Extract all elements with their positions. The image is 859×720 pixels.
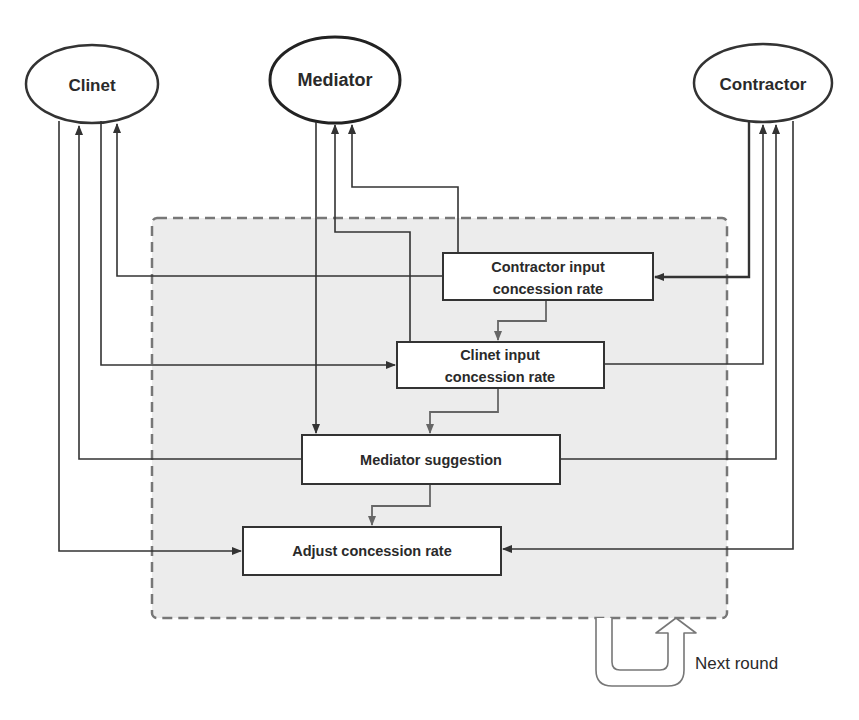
step-mediator-suggestion: Mediator suggestion [302, 435, 560, 484]
step-client-input: Clinet input concession rate [397, 342, 604, 388]
actor-client: Clinet [26, 45, 158, 123]
actor-contractor-label: Contractor [720, 75, 807, 94]
step-contractor-input-line2: concession rate [493, 281, 603, 297]
actor-mediator-label: Mediator [297, 70, 372, 90]
actor-client-label: Clinet [68, 76, 116, 95]
step-mediator-suggestion-label: Mediator suggestion [360, 452, 502, 468]
step-client-input-line1: Clinet input [460, 347, 540, 363]
next-round-loop: Next round [596, 618, 778, 686]
actor-mediator: Mediator [270, 37, 400, 123]
actor-contractor: Contractor [694, 44, 832, 122]
step-contractor-input-line1: Contractor input [491, 259, 605, 275]
negotiation-flow-diagram: Clinet Mediator Contractor [0, 0, 859, 720]
step-adjust-label: Adjust concession rate [292, 543, 452, 559]
u-turn-arrow-icon [596, 618, 696, 686]
step-contractor-input: Contractor input concession rate [443, 253, 653, 300]
step-client-input-line2: concession rate [445, 369, 555, 385]
next-round-label: Next round [695, 654, 778, 673]
step-adjust: Adjust concession rate [243, 527, 501, 575]
